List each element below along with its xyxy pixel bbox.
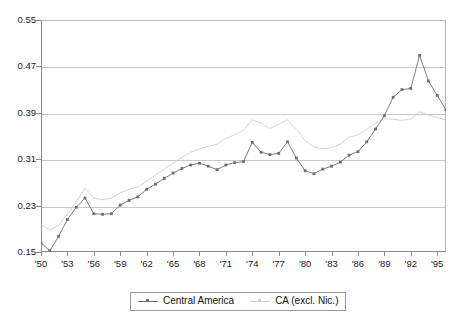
legend-item-central-america: Central America	[138, 295, 234, 307]
data-point-marker	[48, 249, 51, 252]
x-axis-tick-label: '56	[81, 258, 107, 269]
data-point-marker	[401, 88, 404, 91]
data-point-marker	[92, 212, 95, 215]
data-point-marker	[357, 150, 360, 153]
legend-label-ca-excl-nic: CA (excl. Nic.)	[275, 295, 338, 307]
x-axis-tick-label: '86	[345, 258, 371, 269]
data-point-marker	[41, 241, 42, 244]
data-point-marker	[445, 109, 446, 112]
x-axis-tick-mark	[384, 252, 385, 256]
data-point-marker	[172, 172, 175, 175]
data-point-marker	[110, 212, 113, 215]
x-axis-tick-mark	[279, 252, 280, 256]
data-point-marker	[57, 235, 60, 238]
x-axis-tick-label: '83	[319, 258, 345, 269]
data-point-marker	[75, 206, 78, 209]
data-point-marker	[374, 128, 377, 131]
legend: Central America CA (excl. Nic.)	[130, 292, 346, 311]
y-axis-tick-label: 0.47	[0, 61, 36, 71]
data-point-marker	[242, 160, 245, 163]
data-point-marker	[233, 161, 236, 164]
data-point-marker	[313, 172, 316, 175]
data-point-marker	[198, 162, 201, 165]
data-point-marker	[321, 168, 324, 171]
series-ca-excl-nic	[41, 112, 446, 230]
data-point-marker	[330, 165, 333, 168]
data-point-marker	[295, 157, 298, 160]
x-axis-tick-label: '89	[371, 258, 397, 269]
x-axis-tick-mark	[147, 252, 148, 256]
series-line	[41, 55, 446, 250]
data-point-marker	[224, 164, 227, 167]
y-axis-tick-label: 0.31	[0, 154, 36, 164]
x-axis-tick-mark	[173, 252, 174, 256]
legend-item-ca-excl-nic: CA (excl. Nic.)	[250, 295, 338, 307]
series-central-america	[41, 54, 446, 252]
x-axis-tick-mark	[226, 252, 227, 256]
data-point-marker	[101, 213, 104, 216]
data-point-marker	[286, 140, 289, 143]
x-axis-tick-mark	[67, 252, 68, 256]
data-point-marker	[128, 199, 131, 202]
x-axis-tick-mark	[437, 252, 438, 256]
data-point-marker	[269, 153, 272, 156]
x-axis-tick-label: '59	[107, 258, 133, 269]
x-axis-tick-label: '53	[54, 258, 80, 269]
legend-label-central-america: Central America	[163, 295, 234, 307]
data-point-marker	[339, 161, 342, 164]
data-point-marker	[66, 218, 69, 221]
data-point-marker	[163, 177, 166, 180]
data-point-marker	[277, 152, 280, 155]
y-axis-tick-label: 0.55	[0, 15, 36, 25]
x-axis-tick-label: '74	[239, 258, 265, 269]
x-axis-tick-label: '80	[292, 258, 318, 269]
x-axis-tick-mark	[199, 252, 200, 256]
data-point-marker	[84, 197, 87, 200]
x-axis-tick-mark	[252, 252, 253, 256]
data-point-marker	[383, 114, 386, 117]
data-point-marker	[119, 204, 122, 207]
x-axis-tick-label: '92	[398, 258, 424, 269]
y-axis-tick-label: 0.15	[0, 247, 36, 257]
data-point-marker	[392, 96, 395, 99]
data-point-marker	[348, 154, 351, 157]
legend-marker-ca-excl-nic	[250, 297, 270, 306]
x-axis-tick-mark	[120, 252, 121, 256]
data-point-marker	[154, 183, 157, 186]
legend-marker-central-america	[138, 297, 158, 306]
x-axis-tick-label: '65	[160, 258, 186, 269]
data-point-marker	[260, 151, 263, 154]
data-point-marker	[427, 80, 430, 83]
series-layer	[41, 20, 446, 252]
data-point-marker	[365, 140, 368, 143]
x-axis-tick-label: '68	[186, 258, 212, 269]
data-point-marker	[251, 141, 254, 144]
chart-container: 0.550.470.390.310.230.15 '50'53'56'59'62…	[0, 0, 464, 321]
data-point-marker	[418, 54, 421, 57]
x-axis-tick-mark	[411, 252, 412, 256]
data-point-marker	[180, 167, 183, 170]
data-point-marker	[216, 168, 219, 171]
x-axis-tick-mark	[358, 252, 359, 256]
data-point-marker	[436, 94, 439, 97]
data-point-marker	[207, 165, 210, 168]
x-axis-tick-mark	[305, 252, 306, 256]
data-point-marker	[304, 169, 307, 172]
x-axis-tick-label: '50	[28, 258, 54, 269]
series-line	[41, 112, 446, 230]
x-axis-tick-mark	[41, 252, 42, 256]
y-axis-tick-label: 0.39	[0, 108, 36, 118]
x-axis-tick-label: '95	[424, 258, 450, 269]
data-point-marker	[145, 188, 148, 191]
x-axis-tick-label: '77	[266, 258, 292, 269]
data-point-marker	[136, 196, 139, 199]
data-point-marker	[189, 164, 192, 167]
x-axis-tick-mark	[94, 252, 95, 256]
y-axis-tick-label: 0.23	[0, 201, 36, 211]
x-axis-tick-mark	[332, 252, 333, 256]
x-axis-tick-label: '62	[134, 258, 160, 269]
data-point-marker	[409, 87, 412, 90]
x-axis-tick-label: '71	[213, 258, 239, 269]
